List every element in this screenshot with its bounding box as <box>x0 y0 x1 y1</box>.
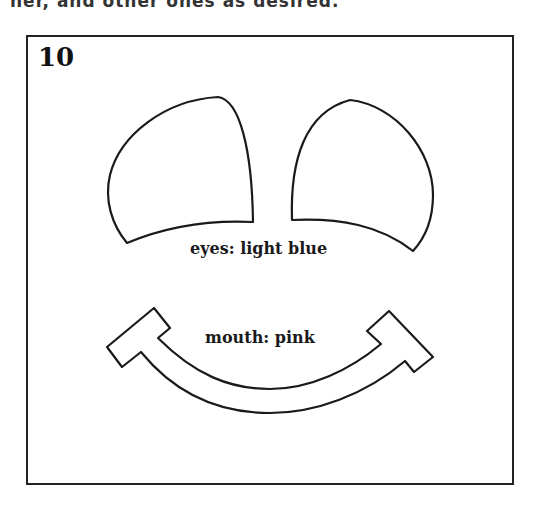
left-eye-shape <box>108 97 253 243</box>
mouth-color-label: mouth: pink <box>205 328 315 347</box>
eyes-color-label: eyes: light blue <box>190 239 327 258</box>
right-eye-shape <box>292 100 433 251</box>
mouth-shape <box>107 308 433 413</box>
